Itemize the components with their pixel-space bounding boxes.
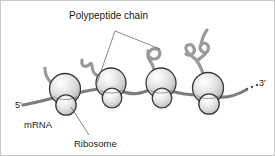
leader-ribosome [71,107,89,135]
ribosome-1 [50,74,81,116]
three-prime-ellipsis [246,84,259,91]
ribosome-2 [96,68,126,108]
mrna-label: mRNA [24,119,53,130]
three-prime-label: 3' [259,78,266,88]
polypeptide-chain-label: Polypeptide chain [69,10,148,21]
ribosome-label: Ribosome [74,138,117,149]
polysome-diagram: Polypeptide chain 5' mRNA Ribosome 3' [0,0,275,156]
ribosome-4 [193,73,224,115]
five-prime-label: 5' [15,100,22,110]
ribosome-3 [146,68,176,108]
